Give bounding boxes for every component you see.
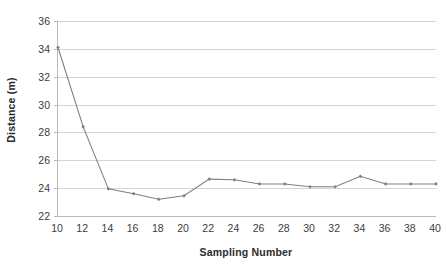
x-tick-label-26: 26	[253, 222, 265, 234]
y-tick-label-24: 24	[38, 182, 50, 194]
x-tick-label-12: 12	[76, 222, 88, 234]
x-tick-label-22: 22	[202, 222, 214, 234]
x-tick-label-16: 16	[127, 222, 139, 234]
series-line	[58, 47, 436, 199]
data-point-14	[107, 187, 111, 191]
data-point-30	[308, 185, 312, 189]
x-tick-label-34: 34	[354, 222, 366, 234]
data-point-36	[384, 182, 388, 186]
x-tick-label-28: 28	[278, 222, 290, 234]
x-tick-label-24: 24	[228, 222, 240, 234]
data-point-28	[283, 182, 287, 186]
data-point-12	[81, 125, 85, 129]
y-tick-label-34: 34	[38, 43, 50, 55]
y-tick-label-28: 28	[38, 126, 50, 138]
x-tick-label-20: 20	[177, 222, 189, 234]
y-tick-label-26: 26	[38, 154, 50, 166]
plot-area	[57, 21, 436, 216]
data-point-40	[434, 182, 438, 186]
x-tick-label-10: 10	[51, 222, 63, 234]
x-tick-label-30: 30	[303, 222, 315, 234]
x-tick-label-38: 38	[404, 222, 416, 234]
x-tick-label-18: 18	[152, 222, 164, 234]
x-axis-title: Sampling Number	[57, 246, 435, 258]
y-tick-label-30: 30	[38, 99, 50, 111]
x-tick-label-32: 32	[328, 222, 340, 234]
x-axis-tick-labels: 10121416182022242628303234363840	[57, 222, 435, 240]
data-point-32	[333, 185, 337, 189]
y-tick-label-36: 36	[38, 15, 50, 27]
x-tick-label-36: 36	[379, 222, 391, 234]
data-series-distance	[58, 21, 436, 216]
data-point-18	[157, 197, 161, 201]
y-axis-title-label: Distance (m)	[5, 77, 17, 142]
y-axis-title: Distance (m)	[0, 0, 22, 220]
x-tick-label-14: 14	[102, 222, 114, 234]
y-axis-tick-labels: 2224262830323436	[22, 21, 54, 216]
x-tick-label-40: 40	[429, 222, 441, 234]
y-tick-label-22: 22	[38, 210, 50, 222]
gridline-y-22	[58, 216, 436, 217]
y-tick-label-32: 32	[38, 71, 50, 83]
line-chart: Distance (m) 2224262830323436 1012141618…	[0, 0, 447, 277]
data-point-38	[409, 182, 413, 186]
data-point-16	[132, 192, 136, 196]
data-point-34	[359, 174, 363, 178]
data-point-24	[233, 178, 237, 182]
data-point-26	[258, 182, 262, 186]
